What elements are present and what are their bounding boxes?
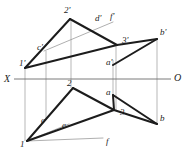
point-label-bp: b' bbox=[160, 27, 168, 37]
canvas-background bbox=[0, 0, 183, 160]
point-label-ap: a' bbox=[106, 57, 114, 67]
point-label-1p: 1' bbox=[19, 58, 27, 68]
point-label-c: c bbox=[41, 115, 45, 125]
point-label-dp: d' bbox=[95, 13, 103, 23]
lower-quad-a-3-side bbox=[113, 95, 114, 110]
projection-drawing: XO 2'd'f'3'b'c'1'a'2a3bce1f bbox=[0, 0, 183, 160]
point-label-b: b bbox=[160, 113, 165, 123]
point-label-3p: 3' bbox=[121, 35, 130, 45]
point-label-2p: 2' bbox=[64, 5, 72, 15]
point-label-2: 2 bbox=[67, 78, 72, 88]
geometry-canvas: XO 2'd'f'3'b'c'1'a'2a3bce1f bbox=[0, 0, 183, 160]
point-label-3: 3 bbox=[119, 107, 125, 117]
axis-label-x: X bbox=[3, 73, 11, 84]
point-label-a: a bbox=[106, 87, 111, 97]
axis-label-o: O bbox=[174, 72, 181, 83]
point-label-e: e bbox=[62, 120, 66, 130]
point-label-1: 1 bbox=[20, 139, 25, 149]
